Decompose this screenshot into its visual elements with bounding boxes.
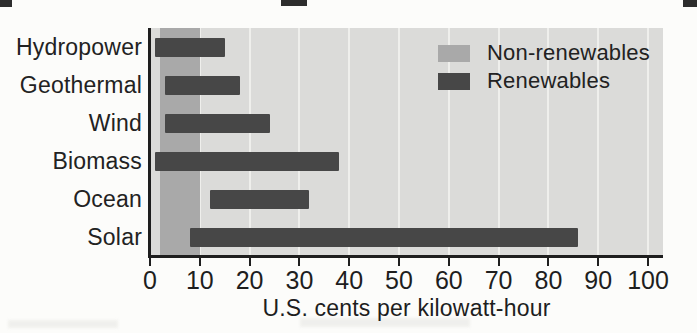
gridline-30 (298, 28, 300, 256)
tick-60 (448, 258, 450, 266)
tick-50 (398, 258, 400, 266)
tick-label-0: 0 (126, 266, 174, 295)
category-label-ocean: Ocean (0, 185, 142, 213)
tick-label-60: 60 (425, 266, 473, 295)
tick-40 (348, 258, 350, 266)
legend-item-renewables: Renewables (438, 67, 650, 95)
tick-label-40: 40 (325, 266, 373, 295)
tick-80 (547, 258, 549, 266)
category-label-hydropower: Hydropower (0, 33, 142, 61)
tick-70 (498, 258, 500, 266)
legend-label: Renewables (487, 68, 610, 94)
tick-90 (597, 258, 599, 266)
tick-label-70: 70 (475, 266, 523, 295)
non-renewables-band (160, 28, 200, 256)
bar-hydropower (155, 38, 225, 57)
tick-label-10: 10 (176, 266, 224, 295)
tick-label-50: 50 (375, 266, 423, 295)
tick-label-100: 100 (624, 266, 672, 295)
gridline-50 (398, 28, 400, 256)
bar-geothermal (165, 76, 240, 95)
bar-solar (190, 228, 578, 247)
legend-label: Non-renewables (487, 40, 650, 66)
gridline-40 (348, 28, 350, 256)
bar-ocean (210, 190, 310, 209)
scan-artifact (683, 0, 697, 7)
category-label-geothermal: Geothermal (0, 71, 142, 99)
scan-artifact (281, 0, 307, 6)
renewables-swatch-icon (438, 73, 470, 90)
bar-biomass (155, 152, 339, 171)
tick-0 (149, 258, 151, 266)
category-label-wind: Wind (0, 109, 142, 137)
tick-label-20: 20 (226, 266, 274, 295)
legend-item-non-renewables: Non-renewables (438, 39, 650, 67)
category-label-biomass: Biomass (0, 147, 142, 175)
scan-artifact (8, 320, 118, 328)
tick-20 (249, 258, 251, 266)
y-axis-line (148, 28, 151, 257)
electricity-cost-comparison-chart: HydropowerGeothermalWindBiomassOceanSola… (0, 0, 697, 333)
x-axis-title: U.S. cents per kilowatt-hour (150, 295, 663, 322)
bar-wind (165, 114, 270, 133)
tick-label-80: 80 (524, 266, 572, 295)
scan-artifact (0, 0, 12, 7)
tick-30 (298, 258, 300, 266)
non-renewables-swatch-icon (438, 45, 470, 62)
category-label-solar: Solar (0, 223, 142, 251)
gridline-20 (249, 28, 251, 256)
tick-label-90: 90 (574, 266, 622, 295)
tick-10 (199, 258, 201, 266)
x-axis-line (148, 255, 663, 258)
legend: Non-renewables Renewables (438, 39, 650, 95)
tick-label-30: 30 (275, 266, 323, 295)
tick-100 (647, 258, 649, 266)
